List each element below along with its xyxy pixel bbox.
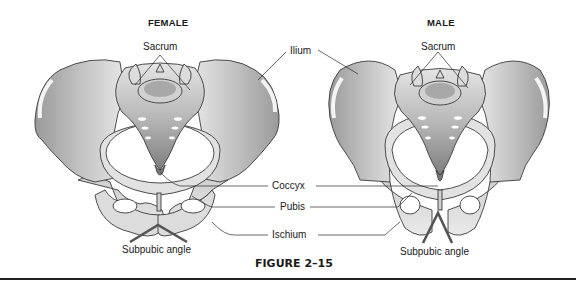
- pelvis-illustrations: [0, 0, 576, 291]
- female-subpubic-angle-label: Subpubic angle: [122, 245, 191, 255]
- female-sacrum-label: Sacrum: [143, 42, 177, 52]
- figure-caption: FIGURE 2–15: [255, 257, 333, 270]
- bottom-rule: [0, 278, 576, 280]
- male-sacrum-label: Sacrum: [421, 42, 455, 52]
- female-pelvis: [35, 60, 279, 236]
- male-subpubic-angle-label: Subpubic angle: [400, 247, 469, 257]
- ilium-label: Ilium: [290, 46, 311, 56]
- ischium-label: Ischium: [272, 230, 306, 240]
- coccyx-label: Coccyx: [272, 181, 305, 191]
- pubis-label: Pubis: [280, 202, 305, 212]
- male-pelvis: [329, 61, 550, 235]
